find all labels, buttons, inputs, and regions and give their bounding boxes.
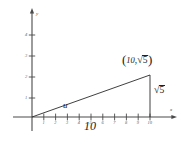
hypotenuse-line — [32, 75, 150, 117]
leg-radicand: 5 — [159, 85, 165, 96]
point-x-value: 10 — [126, 55, 135, 65]
x-tick-label-4: 4 — [78, 121, 80, 125]
x-axis-label: x — [170, 107, 172, 112]
hypotenuse-label: u — [63, 101, 68, 110]
x-axis-arrow — [171, 115, 177, 119]
vertical-leg-label: √5 — [154, 85, 165, 96]
x-tick-label-8: 8 — [125, 121, 127, 125]
y-tick-label-1: 1 — [25, 96, 27, 101]
x-tick-label-7: 7 — [113, 121, 115, 125]
point-radical-group: √5 — [137, 55, 148, 66]
y-axis-label: y — [36, 11, 38, 16]
x-tick-label-9: 9 — [137, 121, 139, 125]
y-tick-label-3: 3 — [25, 54, 27, 59]
y-tick-label-4: 4 — [25, 33, 27, 38]
base-length-label: 10 — [84, 120, 96, 132]
point-close-paren: ) — [148, 52, 152, 67]
y-axis-arrow — [30, 8, 34, 14]
vertex-point-label: (10,√5) — [122, 53, 152, 66]
x-tick-label-2: 2 — [54, 121, 56, 125]
x-tick-label-1: 1 — [42, 121, 44, 125]
y-tick-label-2: 2 — [25, 75, 27, 80]
point-radicand: 5 — [142, 55, 148, 66]
leg-radical-group: √5 — [154, 85, 165, 96]
figure-canvas: y x 1 2 3 4 5 6 7 8 9 10 1 2 3 4 u 10 (1… — [0, 0, 183, 149]
x-tick-label-6: 6 — [101, 121, 103, 125]
x-tick-label-10: 10 — [148, 121, 152, 125]
x-tick-label-3: 3 — [66, 121, 68, 125]
